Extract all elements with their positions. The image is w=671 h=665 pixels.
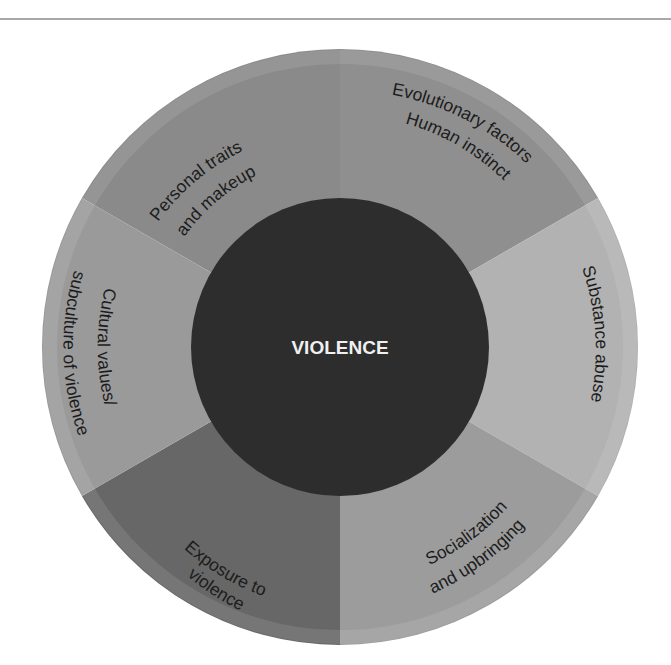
violence-factors-wheel: VIOLENCE Personal traits and makeup Evol… [0,0,671,665]
center-label: VIOLENCE [291,337,388,358]
